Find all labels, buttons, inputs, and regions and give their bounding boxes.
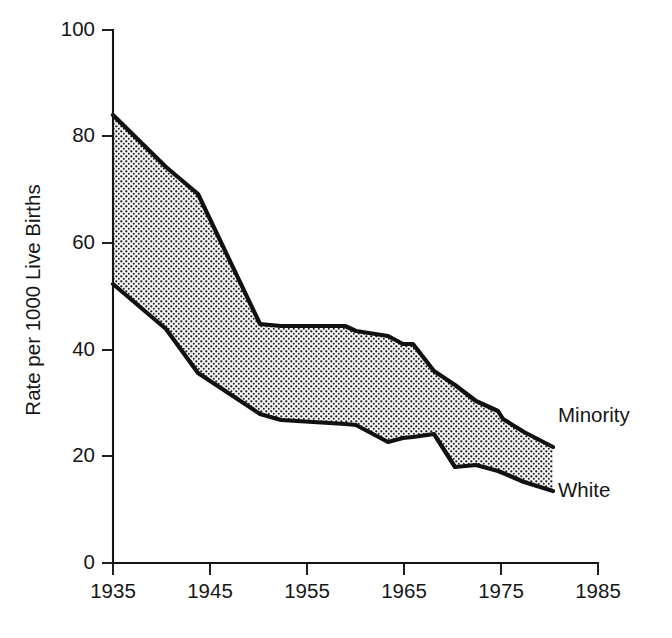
- y-tick-label-100: 100: [61, 17, 95, 40]
- infant-mortality-area-chart: 100 80 60 40 20 0 1935 1945 1955 1965 19…: [0, 0, 672, 638]
- y-tick-label-40: 40: [72, 337, 95, 360]
- x-tick-label-1955: 1955: [284, 579, 330, 602]
- series-label-minority: Minority: [558, 403, 631, 426]
- chart-figure: 100 80 60 40 20 0 1935 1945 1955 1965 19…: [0, 0, 672, 638]
- y-tick-label-80: 80: [72, 123, 95, 146]
- x-tick-labels: 1935 1945 1955 1965 1975 1985: [90, 579, 621, 602]
- band-between-series: [113, 115, 553, 491]
- series-label-white: White: [558, 478, 610, 501]
- y-tick-label-0: 0: [84, 550, 95, 573]
- x-tick-label-1965: 1965: [381, 579, 427, 602]
- x-tick-label-1945: 1945: [187, 579, 233, 602]
- x-tick-label-1935: 1935: [90, 579, 136, 602]
- plot-area: [113, 115, 553, 491]
- y-tick-labels: 100 80 60 40 20 0: [61, 17, 95, 573]
- y-tick-label-60: 60: [72, 230, 95, 253]
- x-tick-label-1985: 1985: [575, 579, 621, 602]
- y-tick-label-20: 20: [72, 443, 95, 466]
- x-tick-label-1975: 1975: [478, 579, 524, 602]
- y-axis-title: Rate per 1000 Live Births: [21, 184, 44, 415]
